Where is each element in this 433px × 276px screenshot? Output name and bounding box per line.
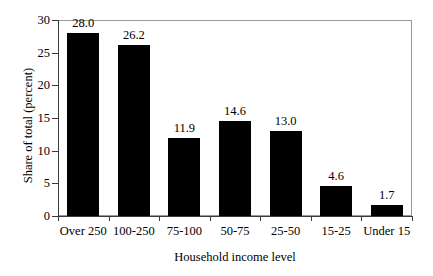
y-tick-label: 5 bbox=[2, 177, 50, 190]
bar bbox=[219, 121, 251, 216]
bar bbox=[67, 33, 99, 216]
x-tick-label: 15-25 bbox=[311, 224, 362, 238]
y-tick-label: 0 bbox=[2, 210, 50, 223]
bar-value-label: 11.9 bbox=[154, 122, 214, 135]
x-tick-label: 100-250 bbox=[109, 224, 160, 238]
bar-value-label: 13.0 bbox=[256, 115, 316, 128]
y-tick-label: 15 bbox=[2, 112, 50, 125]
x-tick-label: Over 250 bbox=[58, 224, 109, 238]
bar bbox=[168, 138, 200, 216]
x-tick-mark bbox=[260, 216, 261, 221]
y-tick-label: 30 bbox=[2, 14, 50, 27]
x-tick-label: 50-75 bbox=[210, 224, 261, 238]
x-tick-label: 25-50 bbox=[260, 224, 311, 238]
bar bbox=[371, 205, 403, 216]
y-tick-label: 25 bbox=[2, 46, 50, 59]
bar-value-label: 4.6 bbox=[306, 170, 366, 183]
y-tick-label: 20 bbox=[2, 79, 50, 92]
y-axis-tick-labels: 051015202530 bbox=[0, 0, 50, 276]
bar-value-label: 1.7 bbox=[357, 189, 417, 202]
x-tick-mark bbox=[58, 216, 59, 221]
x-tick-label: 75-100 bbox=[159, 224, 210, 238]
x-axis-line bbox=[58, 216, 413, 217]
bar bbox=[118, 45, 150, 216]
x-axis-title: Household income level bbox=[58, 250, 412, 265]
x-tick-mark bbox=[311, 216, 312, 221]
y-tick-label: 10 bbox=[2, 144, 50, 157]
bar-chart-figure: Share of total (percent) 051015202530 Ov… bbox=[0, 0, 433, 276]
bar bbox=[320, 186, 352, 216]
x-tick-mark bbox=[412, 216, 413, 221]
bar bbox=[270, 131, 302, 216]
x-tick-mark bbox=[361, 216, 362, 221]
x-tick-mark bbox=[210, 216, 211, 221]
bar-value-label: 26.2 bbox=[104, 29, 164, 42]
bar-series bbox=[58, 20, 412, 216]
x-tick-mark bbox=[159, 216, 160, 221]
x-tick-label: Under 15 bbox=[361, 224, 412, 238]
x-tick-mark bbox=[109, 216, 110, 221]
